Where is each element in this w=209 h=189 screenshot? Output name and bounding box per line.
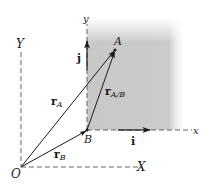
relative-motion-diagram: Y X y x O A B j i rA rB rA/B <box>0 0 209 189</box>
vector-r-A-subscript: A <box>56 100 63 109</box>
point-O-label: O <box>11 167 21 181</box>
unit-vector-i-label: i <box>131 135 135 148</box>
fixed-Y-axis-label: Y <box>16 37 25 51</box>
vector-r-B-label: rB <box>54 148 66 162</box>
point-A-label: A <box>113 35 122 48</box>
fixed-X-axis-label: X <box>136 160 146 174</box>
moving-y-axis-label: y <box>82 13 89 24</box>
unit-vector-j-label: j <box>76 52 81 65</box>
vector-r-AB-subscript: A/B <box>110 90 125 99</box>
point-B-label: B <box>83 133 92 146</box>
vector-r-A-label: rA <box>51 95 63 109</box>
vector-r-B-subscript: B <box>59 153 66 162</box>
moving-frame-region <box>87 18 187 130</box>
moving-x-axis-label: x <box>193 125 199 136</box>
point-A-dot <box>113 48 116 51</box>
point-B-dot <box>85 128 88 131</box>
